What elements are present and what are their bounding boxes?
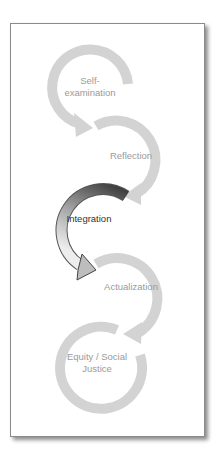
stage-label-reflection: Reflection — [100, 150, 162, 162]
stage-label-equity-social-justice: Equity / Social Justice — [55, 351, 139, 375]
stage-label-line: examination — [58, 87, 122, 99]
stage-arrows — [0, 0, 222, 455]
stage-label-integration: Integration — [58, 213, 120, 225]
stage-label-actualization: Actualization — [92, 281, 170, 293]
stage-label-line: Actualization — [92, 281, 170, 293]
integration-arrow — [62, 189, 126, 280]
stage-label-line: Integration — [58, 213, 120, 225]
stage-label-line: Self- — [58, 75, 122, 87]
stage-label-line: Justice — [55, 363, 139, 375]
stage-label-line: Equity / Social — [55, 351, 139, 363]
stage-label-line: Reflection — [100, 150, 162, 162]
stage-label-self-examination: Self- examination — [58, 75, 122, 99]
